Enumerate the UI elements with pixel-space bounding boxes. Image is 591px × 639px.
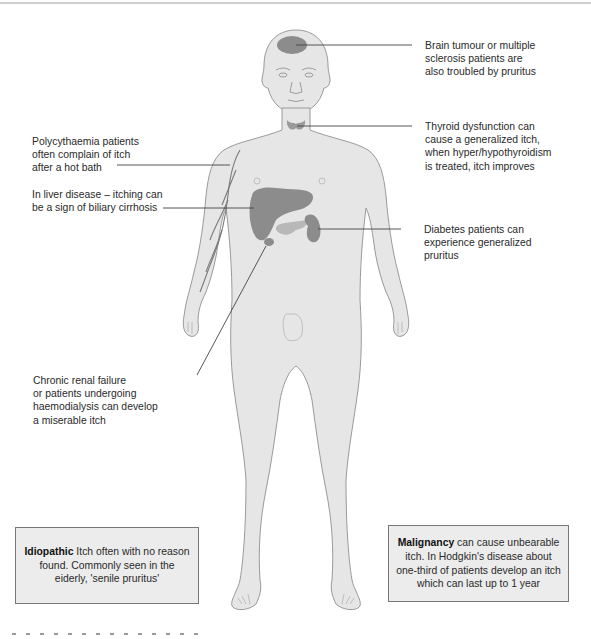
figure-caption-clipped [12,632,202,639]
idiopathic-heading: Idiopathic [24,546,73,557]
annotation-renal-failure: Chronic renal failure or patients underg… [33,374,158,427]
idiopathic-box: Idiopathic Itch often with no reason fou… [15,527,199,604]
annotation-liver-disease: In liver disease – itching can be a sign… [32,188,163,214]
annotation-polycythaemia: Polycythaemia patients often complain of… [32,135,139,175]
malignancy-box: Malignancy can cause unbearable itch. In… [388,525,569,602]
malignancy-heading: Malignancy [398,537,455,548]
annotation-diabetes: Diabetes patients can experience general… [424,223,531,263]
annotation-thyroid: Thyroid dysfunction can cause a generali… [425,120,551,173]
annotation-brain-tumour: Brain tumour or multiple sclerosis patie… [425,39,536,79]
gallbladder [264,238,274,246]
body-outline [183,108,409,610]
